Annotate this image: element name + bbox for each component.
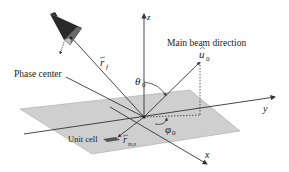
svg-text:φ: φ [165,123,171,135]
u0-label: u 0 [199,47,210,63]
svg-text:m,n: m,n [128,141,136,147]
svg-text:0: 0 [142,81,146,89]
svg-text:f: f [106,63,109,71]
svg-text:u: u [199,48,205,60]
diagram-canvas: Phase center Main beam direction Unit ce… [0,0,289,172]
svg-text:0: 0 [206,55,210,63]
svg-text:0: 0 [172,129,176,137]
z-axis-label: z [146,12,151,22]
unit-cell-label: Unit cell [68,134,98,144]
y-axis-label: y [262,103,268,114]
svg-text:θ: θ [135,75,141,87]
r-f-label: r f [100,56,109,71]
phase-center-label: Phase center [14,69,63,79]
phase-center-arrow [60,42,64,54]
x-axis-label: x [204,149,210,160]
feed-horn-icon [50,12,82,45]
origin-dot [142,115,145,118]
main-beam-label: Main beam direction [167,38,246,48]
